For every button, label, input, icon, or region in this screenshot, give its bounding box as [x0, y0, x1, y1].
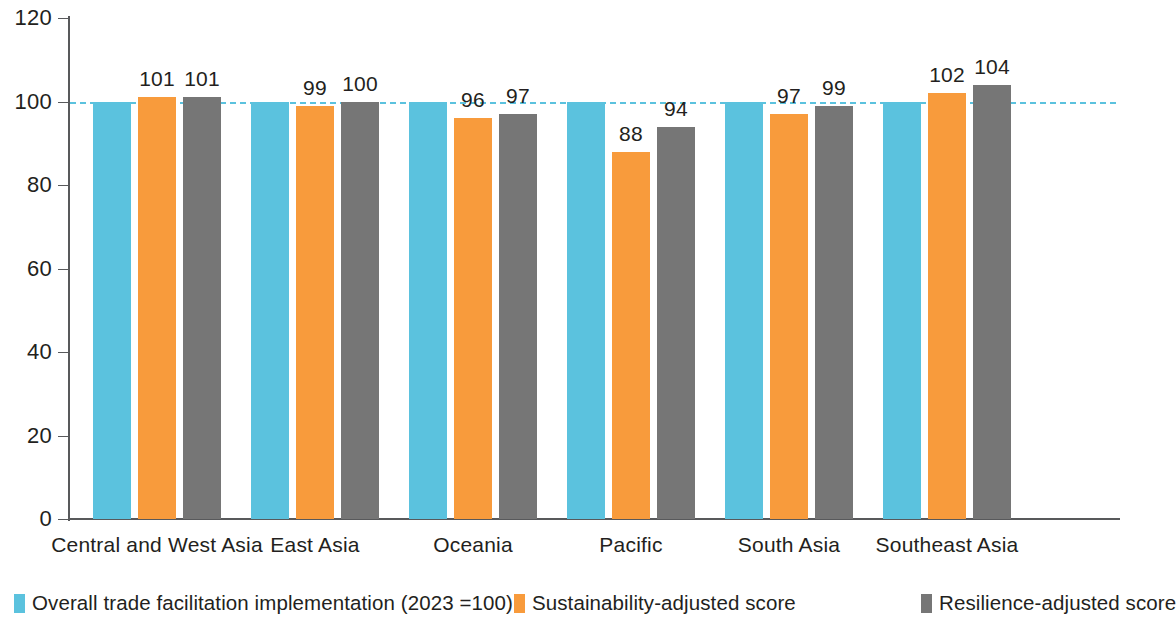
y-axis-tick — [58, 352, 69, 353]
bar-value-label: 88 — [599, 123, 663, 144]
y-axis-tick — [58, 436, 69, 437]
bar — [770, 114, 808, 519]
y-axis-tick-label: 20 — [0, 425, 52, 447]
legend-swatch-icon — [514, 594, 525, 613]
bar — [973, 85, 1011, 519]
bar — [499, 114, 537, 519]
bar-value-label: 101 — [170, 68, 234, 89]
bar — [612, 152, 650, 519]
y-axis-tick — [58, 519, 69, 520]
bar — [883, 102, 921, 520]
legend-item[interactable]: Overall trade facilitation implementatio… — [14, 592, 513, 614]
chart-legend: Overall trade facilitation implementatio… — [0, 592, 1120, 623]
legend-swatch-icon — [921, 594, 932, 613]
bar — [93, 102, 131, 520]
bar-value-label: 94 — [644, 98, 708, 119]
y-axis-tick-label: 0 — [0, 508, 52, 530]
bar-value-label: 99 — [802, 77, 866, 98]
y-axis-tick — [58, 18, 69, 19]
bar — [657, 127, 695, 519]
bar — [296, 106, 334, 519]
bar — [138, 97, 176, 519]
y-axis-tick-label: 100 — [0, 91, 52, 113]
bar-value-label: 100 — [328, 73, 392, 94]
y-axis-tick — [58, 185, 69, 186]
x-axis-category-label: Southeast Asia — [817, 533, 1077, 557]
bar — [409, 102, 447, 520]
y-axis-tick-label: 40 — [0, 341, 52, 363]
bar — [251, 102, 289, 520]
legend-item[interactable]: Sustainability-adjusted score — [514, 592, 796, 614]
legend-label: Overall trade facilitation implementatio… — [32, 592, 513, 614]
y-axis-tick — [58, 269, 69, 270]
bar — [454, 118, 492, 519]
y-axis-tick-label: 80 — [0, 174, 52, 196]
bar-value-label: 97 — [486, 85, 550, 106]
bar — [567, 102, 605, 520]
bar-value-label: 104 — [960, 56, 1024, 77]
bar — [725, 102, 763, 520]
y-axis-tick — [58, 102, 69, 103]
bar — [341, 102, 379, 520]
legend-item[interactable]: Resilience-adjusted score — [921, 592, 1176, 614]
legend-label: Resilience-adjusted score — [939, 592, 1176, 614]
bar — [183, 97, 221, 519]
bar — [815, 106, 853, 519]
y-axis-tick-label: 120 — [0, 7, 52, 29]
legend-label: Sustainability-adjusted score — [532, 592, 796, 614]
legend-swatch-icon — [14, 594, 25, 613]
y-axis-tick-label: 60 — [0, 258, 52, 280]
bar — [928, 93, 966, 519]
